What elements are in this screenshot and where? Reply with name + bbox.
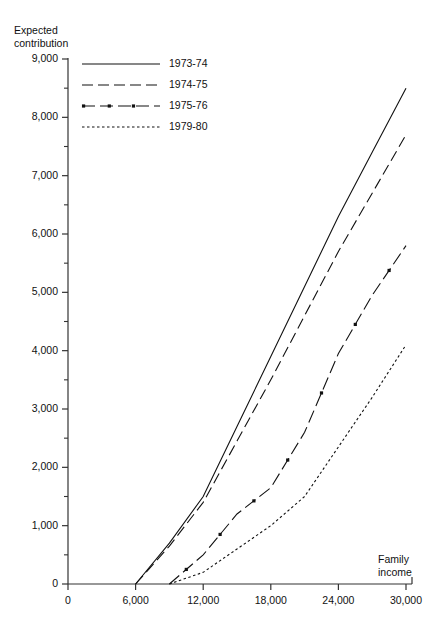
series-1974-75	[136, 135, 406, 584]
plot-area	[0, 0, 444, 626]
y-tick-label: 4,000	[0, 344, 58, 356]
y-tick-label: 5,000	[0, 285, 58, 297]
series-1975-76	[169, 246, 406, 584]
legend-label-1974-75: 1974-75	[169, 78, 208, 90]
chart-canvas: Expected contribution Family income 01,0…	[0, 0, 444, 626]
legend-dot-marker	[82, 104, 85, 107]
legend-label-1979-80: 1979-80	[169, 120, 208, 132]
series-dot-marker	[388, 269, 391, 272]
legend-label-1975-76: 1975-76	[169, 99, 208, 111]
legend-entry-1975-76[interactable]	[82, 104, 160, 107]
series-line-1974-75	[136, 135, 406, 584]
legend-dot-marker	[132, 104, 135, 107]
series-line-1975-76	[169, 246, 406, 584]
y-tick-label: 7,000	[0, 169, 58, 181]
series-1973-74	[136, 88, 406, 584]
y-tick-label: 3,000	[0, 402, 58, 414]
legend-label-1973-74: 1973-74	[169, 57, 208, 69]
y-tick-label: 9,000	[0, 52, 58, 64]
series-dot-marker	[354, 323, 357, 326]
legend-dot-marker	[108, 104, 111, 107]
series-dot-marker	[320, 391, 323, 394]
series-1979-80	[169, 345, 406, 584]
series-dot-marker	[219, 533, 222, 536]
series-line-1973-74	[136, 88, 406, 584]
series-dot-marker	[252, 499, 255, 502]
series-dot-marker	[286, 458, 289, 461]
series-line-1979-80	[169, 345, 406, 584]
y-tick-label: 0	[0, 577, 58, 589]
series-dot-marker	[185, 568, 188, 571]
y-tick-label: 8,000	[0, 110, 58, 122]
y-tick-label: 2,000	[0, 460, 58, 472]
y-tick-label: 1,000	[0, 519, 58, 531]
x-tick-label: 30,000	[366, 594, 444, 606]
y-tick-label: 6,000	[0, 227, 58, 239]
